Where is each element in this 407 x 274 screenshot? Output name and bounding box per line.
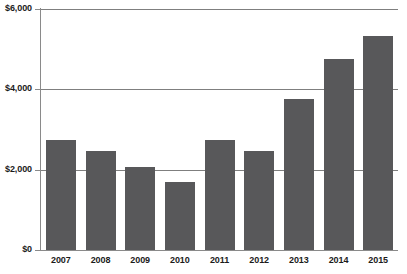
x-axis-label: 2011 — [200, 255, 240, 265]
bar — [165, 182, 195, 250]
x-axis-label: 2015 — [358, 255, 398, 265]
bar — [46, 140, 76, 250]
bar — [324, 59, 354, 250]
y-axis-label: $6,000 — [5, 3, 32, 13]
x-axis-label: 2007 — [41, 255, 81, 265]
y-axis-tick — [35, 9, 41, 10]
y-axis-label: $2,000 — [5, 164, 32, 174]
gridline — [41, 9, 398, 10]
x-axis-label: 2012 — [239, 255, 279, 265]
x-axis-label: 2010 — [160, 255, 200, 265]
y-axis-tick — [35, 250, 41, 251]
plot-area — [41, 9, 398, 250]
bar — [363, 36, 393, 250]
bar — [86, 151, 116, 250]
x-axis-label: 2013 — [279, 255, 319, 265]
chart-title-cropped — [0, 0, 407, 7]
x-axis-line — [40, 250, 398, 251]
bar-chart: $6,000$4,000$2,000$020072008200920102011… — [0, 0, 407, 274]
bar — [205, 140, 235, 250]
bar — [244, 151, 274, 250]
bar — [125, 167, 155, 250]
x-axis-label: 2009 — [120, 255, 160, 265]
x-axis-label: 2008 — [81, 255, 121, 265]
y-axis-tick — [35, 170, 41, 171]
y-axis-label: $4,000 — [5, 83, 32, 93]
y-axis-tick — [35, 89, 41, 90]
bar — [284, 99, 314, 250]
x-axis-label: 2014 — [319, 255, 359, 265]
y-axis-label: $0 — [22, 244, 32, 254]
